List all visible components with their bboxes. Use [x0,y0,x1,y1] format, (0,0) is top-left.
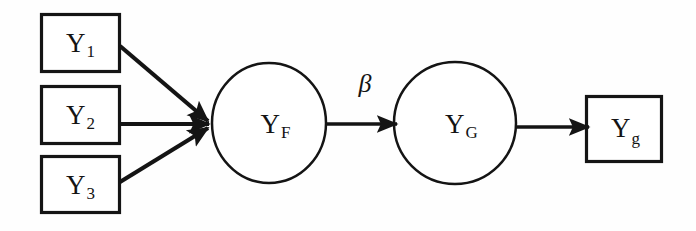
path-y3-to-yf [120,128,208,182]
indicator-box-y1 [42,15,120,72]
indicator-box-yg [587,97,662,162]
path-y1-to-yf [120,46,208,121]
latent-circle-yf [212,63,326,183]
indicator-box-y2 [42,87,120,144]
indicator-box-y3 [42,157,120,213]
path-diagram: Y1 Y2 Y3 YF YG Yg β [0,0,696,231]
latent-circle-yg [394,62,516,184]
diagram-canvas [0,0,696,231]
